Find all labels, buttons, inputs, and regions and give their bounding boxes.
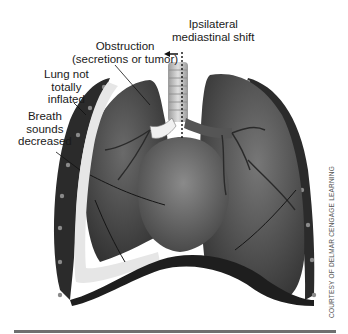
lung-illustration: Ipsilateral mediastinal shift Obstructio… <box>0 0 348 334</box>
label-obstruction: Obstruction (secretions or tumor) <box>72 40 178 65</box>
bottom-divider <box>14 330 336 333</box>
label-mediastinal-shift: Ipsilateral mediastinal shift <box>172 18 254 43</box>
label-breath-sounds: Breath sounds decreased <box>18 110 72 148</box>
trachea <box>168 62 188 122</box>
image-credit: COURTESY OF DELMAR CENGAGE LEARNING <box>328 166 335 318</box>
label-lung-not-inflated: Lung not totally inflated <box>44 68 89 106</box>
